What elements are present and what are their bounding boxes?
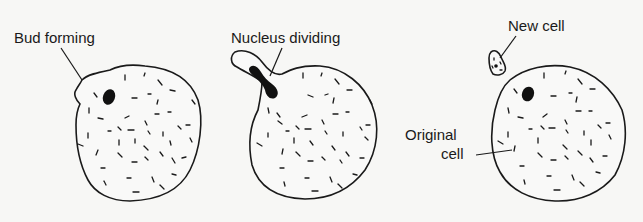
- label-original-cell-line2: cell: [441, 145, 464, 162]
- original-cell-outline: [492, 66, 626, 201]
- yeast-budding-diagram: Bud forming Nucleus dividing New cell Or…: [0, 0, 643, 222]
- leader-bud-forming: [61, 48, 82, 80]
- stage-separated: [476, 36, 625, 201]
- stage-bud-forming: [61, 48, 201, 201]
- leader-new-cell: [500, 36, 516, 58]
- label-new-cell: New cell: [508, 17, 565, 34]
- new-cell-nucleus: [494, 64, 498, 68]
- stage-nucleus-dividing: [231, 48, 376, 199]
- leader-nucleus-dividing: [270, 48, 282, 76]
- cell-outline-1: [75, 65, 201, 201]
- label-nucleus-dividing: Nucleus dividing: [231, 29, 340, 46]
- label-bud-forming: Bud forming: [14, 29, 95, 46]
- label-original-cell-line1: Original: [405, 126, 457, 143]
